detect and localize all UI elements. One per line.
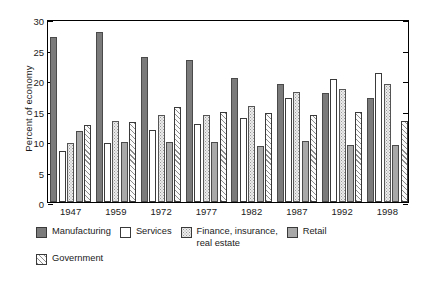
y-axis-tick bbox=[48, 21, 53, 22]
x-axis-tick-label: 1947 bbox=[60, 206, 81, 217]
legend-label-manufacturing: Manufacturing bbox=[52, 226, 111, 238]
legend-item-services[interactable]: Services bbox=[120, 226, 172, 238]
bar-group bbox=[141, 21, 182, 202]
bar-retail-1998 bbox=[392, 145, 399, 202]
bar-retail-1947 bbox=[76, 131, 83, 202]
bar-retail-1977 bbox=[211, 142, 218, 202]
bar-services-1992 bbox=[330, 79, 337, 202]
y-axis-tick-label: 20 bbox=[33, 77, 44, 88]
bar-manufacturing-1972 bbox=[141, 57, 148, 202]
y-axis-tick-right bbox=[403, 82, 408, 83]
bar-government-1998 bbox=[401, 121, 408, 202]
bar-group bbox=[186, 21, 227, 202]
bar-fire-1959 bbox=[112, 121, 119, 202]
y-axis-title: Percent of economy bbox=[23, 29, 34, 189]
x-axis-tick-label: 1959 bbox=[105, 206, 126, 217]
bar-fire-1972 bbox=[158, 115, 165, 202]
legend-swatch-retail-icon bbox=[287, 227, 298, 238]
legend-item-retail[interactable]: Retail bbox=[287, 226, 327, 238]
x-axis-tick-label: 1987 bbox=[286, 206, 307, 217]
bars-container bbox=[48, 21, 408, 202]
bar-group bbox=[50, 21, 91, 202]
y-axis-tick-right bbox=[403, 52, 408, 53]
bar-group bbox=[231, 21, 272, 202]
bar-fire-1998 bbox=[384, 84, 391, 202]
x-axis-tick-label: 1972 bbox=[151, 206, 172, 217]
legend-swatch-fire-icon bbox=[181, 227, 192, 238]
y-axis-tick-label: 30 bbox=[33, 16, 44, 27]
bar-manufacturing-1992 bbox=[322, 93, 329, 202]
bar-group bbox=[367, 21, 408, 202]
legend-label-services: Services bbox=[136, 226, 172, 238]
x-axis-tick-label: 1998 bbox=[377, 206, 398, 217]
bar-group bbox=[277, 21, 318, 202]
plot-area: 0510152025301947195919721977198219871992… bbox=[47, 20, 409, 203]
bar-services-1959 bbox=[104, 143, 111, 202]
bar-retail-1959 bbox=[121, 142, 128, 202]
bar-manufacturing-1987 bbox=[277, 84, 284, 202]
legend-item-government[interactable]: Government bbox=[36, 253, 103, 265]
legend-row: ManufacturingServicesFinance, insurance,… bbox=[36, 226, 426, 249]
bar-manufacturing-1959 bbox=[96, 32, 103, 202]
y-axis-tick bbox=[48, 204, 53, 205]
bar-manufacturing-1982 bbox=[231, 78, 238, 202]
bar-services-1987 bbox=[285, 98, 292, 202]
chart-legend: ManufacturingServicesFinance, insurance,… bbox=[36, 226, 426, 269]
bar-fire-1977 bbox=[203, 115, 210, 202]
bar-manufacturing-1947 bbox=[50, 37, 57, 202]
y-axis-tick-label: 15 bbox=[33, 107, 44, 118]
y-axis-tick-label: 0 bbox=[39, 199, 44, 210]
legend-label-fire: Finance, insurance, real estate bbox=[197, 226, 278, 249]
y-axis-tick-right bbox=[403, 113, 408, 114]
bar-fire-1992 bbox=[339, 89, 346, 202]
bar-government-1947 bbox=[84, 125, 91, 202]
bar-fire-1987 bbox=[293, 92, 300, 202]
x-axis-tick-label: 1982 bbox=[241, 206, 262, 217]
y-axis-tick-right bbox=[403, 204, 408, 205]
bar-services-1947 bbox=[59, 151, 66, 202]
x-axis-tick-label: 1992 bbox=[332, 206, 353, 217]
bar-chart-figure: Percent of economy 051015202530194719591… bbox=[0, 0, 430, 281]
bar-manufacturing-1998 bbox=[367, 98, 374, 202]
bar-services-1972 bbox=[149, 130, 156, 202]
bar-government-1982 bbox=[265, 113, 272, 202]
bar-services-1998 bbox=[375, 73, 382, 202]
y-axis-tick-label: 10 bbox=[33, 138, 44, 149]
bar-retail-1982 bbox=[257, 146, 264, 202]
legend-item-manufacturing[interactable]: Manufacturing bbox=[36, 226, 111, 238]
bar-group bbox=[322, 21, 363, 202]
bar-government-1987 bbox=[310, 115, 317, 202]
bar-government-1972 bbox=[174, 107, 181, 202]
bar-fire-1982 bbox=[248, 106, 255, 202]
bar-retail-1972 bbox=[166, 142, 173, 202]
bar-fire-1947 bbox=[67, 143, 74, 202]
bar-services-1977 bbox=[194, 124, 201, 202]
y-axis-tick-label: 25 bbox=[33, 46, 44, 57]
legend-row: Government bbox=[36, 253, 426, 265]
bar-retail-1987 bbox=[302, 141, 309, 202]
bar-government-1992 bbox=[355, 112, 362, 202]
bar-retail-1992 bbox=[347, 145, 354, 202]
x-axis-tick-label: 1977 bbox=[196, 206, 217, 217]
legend-label-government: Government bbox=[52, 253, 103, 265]
legend-item-fire[interactable]: Finance, insurance, real estate bbox=[181, 226, 278, 249]
legend-label-retail: Retail bbox=[303, 226, 327, 238]
bar-government-1959 bbox=[129, 122, 136, 202]
y-axis-tick-label: 5 bbox=[39, 168, 44, 179]
bar-group bbox=[96, 21, 137, 202]
bar-services-1982 bbox=[240, 118, 247, 202]
legend-swatch-services-icon bbox=[120, 227, 131, 238]
legend-swatch-government-icon bbox=[36, 254, 47, 265]
y-axis-tick-right bbox=[403, 21, 408, 22]
bar-manufacturing-1977 bbox=[186, 60, 193, 202]
bar-government-1977 bbox=[220, 112, 227, 202]
legend-swatch-manufacturing-icon bbox=[36, 227, 47, 238]
